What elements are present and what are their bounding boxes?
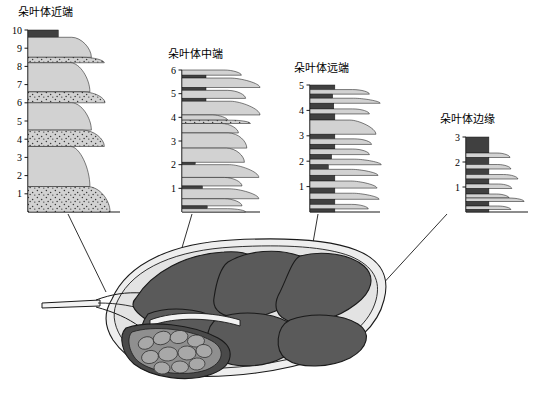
bed-proximal-0 bbox=[28, 30, 58, 37]
figure-canvas: 朵叶体近端 朵叶体中端 朵叶体远端 朵叶体边缘 bbox=[0, 0, 534, 394]
axis-label: 10 bbox=[12, 25, 22, 36]
bed-middle-5 bbox=[182, 98, 206, 101]
bed-margin-8 bbox=[466, 189, 489, 195]
axis-label: 5 bbox=[17, 116, 22, 127]
bed-middle-9 bbox=[182, 123, 238, 132]
bed-margin-11 bbox=[466, 202, 489, 207]
bed-proximal-7 bbox=[28, 146, 90, 186]
axis-label: 1 bbox=[17, 188, 22, 199]
axis-label: 3 bbox=[171, 136, 176, 147]
bed-proximal-4 bbox=[28, 92, 105, 103]
bed-distal-11 bbox=[310, 149, 369, 155]
axis-label: 3 bbox=[17, 152, 22, 163]
bed-margin-10 bbox=[466, 198, 524, 202]
axis-label: 2 bbox=[171, 159, 176, 170]
bed-margin-0 bbox=[466, 137, 489, 153]
axis-label: 1 bbox=[299, 181, 304, 192]
bed-distal-3 bbox=[310, 98, 380, 103]
bed-distal-1 bbox=[310, 90, 369, 95]
bed-proximal-3 bbox=[28, 63, 90, 92]
bed-middle-12 bbox=[182, 162, 195, 164]
bed-distal-17 bbox=[310, 181, 377, 188]
axis-label: 2 bbox=[17, 170, 22, 181]
lobe-stalk bbox=[42, 300, 100, 308]
bed-distal-2 bbox=[310, 94, 333, 98]
axis-label: 4 bbox=[17, 134, 22, 145]
bed-margin-7 bbox=[466, 184, 512, 189]
axis-label: 4 bbox=[299, 105, 304, 116]
bed-middle-10 bbox=[182, 133, 247, 148]
lobe-body-diagram bbox=[42, 239, 386, 379]
bed-distal-10 bbox=[310, 144, 335, 149]
bed-margin-6 bbox=[466, 179, 489, 184]
bed-proximal-8 bbox=[28, 187, 110, 212]
bed-proximal-5 bbox=[28, 103, 91, 130]
bed-distal-6 bbox=[310, 114, 335, 120]
bed-distal-12 bbox=[310, 155, 332, 160]
bed-middle-16 bbox=[182, 189, 259, 199]
bed-distal-21 bbox=[310, 204, 368, 209]
bed-middle-19 bbox=[182, 209, 246, 212]
axis-label: 8 bbox=[17, 61, 22, 72]
log-panels: 1234567891012345612345123 bbox=[12, 25, 528, 212]
axis-label: 6 bbox=[171, 65, 176, 76]
axis-label: 3 bbox=[455, 132, 460, 143]
bed-middle-13 bbox=[182, 165, 259, 178]
bed-distal-5 bbox=[310, 109, 369, 114]
bed-margin-13 bbox=[466, 210, 489, 213]
axis-label: 7 bbox=[17, 79, 22, 90]
axis-label: 1 bbox=[171, 183, 176, 194]
bed-distal-4 bbox=[310, 103, 334, 109]
axis-label: 5 bbox=[171, 88, 176, 99]
bed-proximal-6 bbox=[28, 130, 104, 146]
diagram-svg: 1234567891012345612345123 bbox=[0, 0, 534, 394]
bed-middle-14 bbox=[182, 177, 242, 186]
bed-middle-17 bbox=[182, 199, 242, 206]
bed-margin-1 bbox=[466, 153, 510, 158]
bed-margin-9 bbox=[466, 194, 509, 198]
bed-middle-18 bbox=[182, 206, 207, 209]
bed-middle-0 bbox=[182, 70, 241, 75]
bed-middle-2 bbox=[182, 78, 260, 87]
axis-label: 2 bbox=[299, 156, 304, 167]
bed-distal-15 bbox=[310, 169, 378, 175]
axis-label: 6 bbox=[17, 97, 22, 108]
log-panel-margin: 123 bbox=[455, 132, 528, 212]
granule bbox=[171, 361, 188, 374]
axis-label: 4 bbox=[171, 112, 176, 123]
bed-margin-2 bbox=[466, 158, 489, 165]
bed-distal-18 bbox=[310, 188, 335, 193]
log-panel-middle: 123456 bbox=[171, 65, 260, 212]
bed-middle-8 bbox=[182, 120, 250, 123]
bed-margin-3 bbox=[466, 165, 511, 170]
bed-distal-8 bbox=[310, 134, 335, 139]
axis-label: 9 bbox=[17, 43, 22, 54]
axis-label: 5 bbox=[299, 80, 304, 91]
log-panel-proximal: 12345678910 bbox=[12, 25, 120, 212]
bed-distal-19 bbox=[310, 193, 379, 199]
bed-distal-22 bbox=[310, 209, 335, 212]
bed-proximal-1 bbox=[28, 37, 91, 57]
bed-distal-13 bbox=[310, 159, 381, 165]
bed-distal-9 bbox=[310, 139, 372, 145]
bed-middle-15 bbox=[182, 186, 202, 189]
bed-middle-11 bbox=[182, 148, 244, 162]
bed-distal-0 bbox=[310, 85, 335, 90]
bed-margin-5 bbox=[466, 175, 518, 180]
bed-margin-12 bbox=[466, 206, 511, 210]
axis-label: 1 bbox=[455, 182, 460, 193]
bed-distal-14 bbox=[310, 165, 328, 170]
bed-middle-7 bbox=[182, 115, 228, 120]
log-panel-distal: 12345 bbox=[299, 80, 381, 212]
bed-middle-3 bbox=[182, 88, 206, 91]
lobe-segment-6 bbox=[278, 315, 366, 366]
bed-proximal-2 bbox=[28, 57, 104, 62]
bed-middle-4 bbox=[182, 90, 246, 98]
axis-label: 2 bbox=[455, 157, 460, 168]
bed-distal-16 bbox=[310, 175, 335, 181]
bed-distal-20 bbox=[310, 199, 335, 204]
bed-margin-4 bbox=[466, 169, 489, 175]
bed-middle-6 bbox=[182, 101, 260, 115]
axis-label: 3 bbox=[299, 130, 304, 141]
bed-middle-1 bbox=[182, 75, 206, 78]
